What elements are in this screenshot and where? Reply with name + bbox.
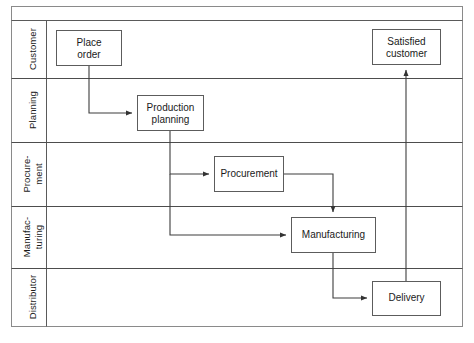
lane-label-distributor: Distributor [27, 275, 38, 319]
lane-label-planning-text: Planning [27, 91, 38, 129]
lane-label-procurement-line2: ment [33, 163, 44, 185]
node-manufacturing[interactable]: Manufacturing [292, 218, 376, 253]
lane-label-manufacturing-line2: turing [33, 225, 44, 249]
node-satisfied-customer-label-line2: customer [386, 48, 428, 59]
node-procurement[interactable]: Procurement [215, 157, 284, 192]
lane-label-manufacturing-line1: Manufac- [21, 217, 32, 257]
lane-label-customer-text: Customer [27, 28, 38, 70]
lane-label-distributor-text: Distributor [27, 275, 38, 319]
swimlane-diagram: Customer Planning Procure- ment Manufac-… [0, 0, 474, 343]
node-satisfied-customer-label-line1: Satisfied [387, 36, 425, 47]
diagram-canvas: Customer Planning Procure- ment Manufac-… [0, 0, 474, 343]
lane-label-procurement-line1: Procure- [21, 155, 32, 192]
node-delivery[interactable]: Delivery [373, 282, 441, 316]
node-production-planning[interactable]: Production planning [138, 96, 204, 131]
node-delivery-label: Delivery [388, 292, 424, 303]
node-place-order[interactable]: Place order [57, 31, 122, 66]
node-satisfied-customer[interactable]: Satisfied customer [373, 30, 441, 65]
node-manufacturing-label: Manufacturing [302, 229, 365, 240]
node-production-planning-label-line2: planning [152, 114, 190, 125]
node-place-order-label-line1: Place [76, 37, 101, 48]
node-procurement-label: Procurement [220, 168, 277, 179]
lane-label-planning: Planning [27, 91, 38, 129]
lane-label-customer: Customer [27, 28, 38, 70]
node-place-order-label-line2: order [77, 49, 101, 60]
node-production-planning-label-line1: Production [147, 102, 195, 113]
